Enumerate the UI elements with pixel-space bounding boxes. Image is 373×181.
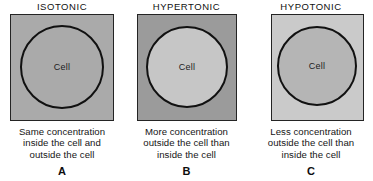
cell-label-hypertonic: Cell [179, 62, 195, 72]
panel-letter-a: A [58, 165, 66, 177]
cell-label-isotonic: Cell [54, 62, 70, 72]
panel-hypertonic: HYPERTONIC Cell More concentration outsi… [124, 0, 249, 177]
caption-line: outside the cell than [128, 137, 246, 148]
caption-line: Same concentration [3, 126, 121, 137]
panel-hypotonic: HYPOTONIC Cell Less concentration outsid… [249, 0, 373, 177]
cell-environment-box-hypertonic: Cell [137, 14, 237, 121]
cell-circle-hypotonic: Cell [277, 26, 357, 106]
panel-title-hypertonic: HYPERTONIC [153, 1, 220, 14]
panel-caption-hypertonic: More concentration outside the cell than… [128, 126, 246, 160]
caption-line: inside the cell and [3, 137, 121, 148]
cell-label-hypotonic: Cell [309, 61, 325, 71]
cell-environment-box-hypotonic: Cell [271, 14, 364, 121]
panel-isotonic: ISOTONIC Cell Same concentration inside … [0, 0, 124, 177]
panel-caption-hypotonic: Less concentration outside the cell than… [250, 126, 372, 160]
caption-line: More concentration [128, 126, 246, 137]
cell-circle-hypertonic: Cell [146, 26, 228, 108]
panel-title-hypotonic: HYPOTONIC [280, 1, 341, 14]
tonicity-diagram: ISOTONIC Cell Same concentration inside … [0, 0, 373, 181]
caption-line: inside the cell [128, 149, 246, 160]
panel-title-isotonic: ISOTONIC [37, 1, 87, 14]
caption-line: outside the cell than [250, 137, 372, 148]
panel-letter-b: B [182, 165, 190, 177]
caption-line: outside the cell [3, 149, 121, 160]
cell-circle-isotonic: Cell [20, 25, 104, 109]
panel-letter-c: C [307, 165, 315, 177]
cell-environment-box-isotonic: Cell [10, 14, 114, 121]
caption-line: Less concentration [250, 126, 372, 137]
panel-caption-isotonic: Same concentration inside the cell and o… [3, 126, 121, 160]
caption-line: inside the cell [250, 149, 372, 160]
